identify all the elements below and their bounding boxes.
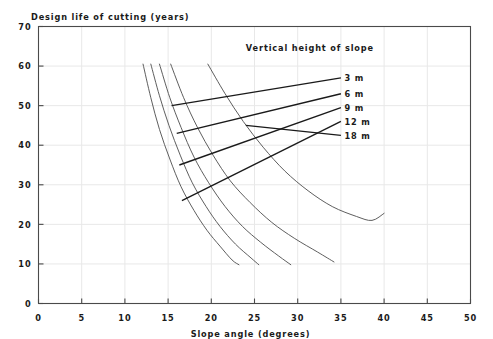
legend-leader-line [172,78,341,106]
x-tick-label: 25 [248,313,261,323]
legend-item-12-m: 12 m [344,117,370,127]
y-tick-label: 40 [18,140,31,150]
y-tick-label: 0 [25,299,32,309]
y-tick-label: 10 [18,259,31,269]
data-curve-12-m [171,64,334,262]
legend-item-18-m: 18 m [344,131,370,141]
legend-item-3-m: 3 m [344,73,364,83]
x-tick-label: 10 [118,313,131,323]
x-tick-label: 0 [35,313,42,323]
x-tick-label: 45 [421,313,434,323]
y-tick-label: 30 [18,180,31,190]
x-tick-label: 5 [78,313,85,323]
legend-leader-line [246,125,341,135]
x-tick-label: 35 [334,313,347,323]
legend-item-9-m: 9 m [344,103,364,113]
y-axis-title: Design life of cutting (years) [31,12,189,22]
x-tick-label: 20 [205,313,218,323]
x-axis-title: Slope angle (degrees) [191,329,311,339]
x-tick-label: 50 [464,313,477,323]
legend-item-6-m: 6 m [344,89,364,99]
x-tick-label: 40 [377,313,390,323]
chart-container: 05101520253035404550010203040506070Desig… [0,0,493,339]
data-curve-18-m [208,64,384,220]
y-tick-label: 70 [18,22,31,32]
legend-leader-line [179,108,341,165]
y-tick-label: 60 [18,61,31,71]
x-tick-label: 30 [291,313,304,323]
x-tick-label: 15 [161,313,174,323]
y-tick-label: 20 [18,220,31,230]
legend-title: Vertical height of slope [246,43,374,53]
y-tick-label: 50 [18,101,31,111]
data-curve-3-m [143,64,239,265]
design-life-chart: 05101520253035404550010203040506070Desig… [0,0,493,339]
